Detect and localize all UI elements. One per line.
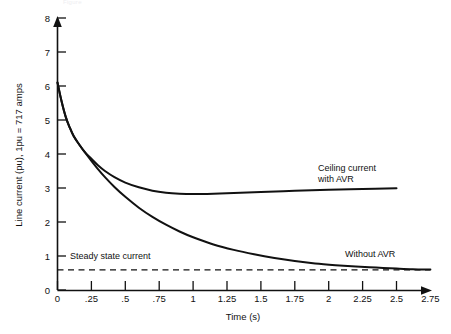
y-tick-label-1: 1 xyxy=(45,251,50,262)
y-axis-title: Line current (pu), 1pu = 717 amps xyxy=(13,83,24,227)
y-tick-marks xyxy=(58,18,67,290)
x-tick-label-2: .5 xyxy=(121,293,129,304)
x-tick-label-4: 1 xyxy=(190,293,195,304)
x-tick-label-9: 2.25 xyxy=(353,293,372,304)
x-tick-marks xyxy=(58,281,397,290)
x-axis-title: Time (s) xyxy=(226,311,260,322)
annotation-ceiling-line1: Ceiling current xyxy=(318,163,377,173)
annotation-ceiling-line2: with AVR xyxy=(317,174,354,184)
annotation-without-avr: Without AVR xyxy=(345,249,396,259)
x-tick-label-3: .75 xyxy=(153,293,166,304)
annotation-ceiling-current: Ceiling current with AVR xyxy=(317,163,377,184)
x-tick-label-5: 1.25 xyxy=(218,293,237,304)
x-tick-label-7: 1.75 xyxy=(286,293,305,304)
y-tick-label-7: 7 xyxy=(45,47,50,58)
y-tick-label-0: 0 xyxy=(45,285,50,296)
x-axis xyxy=(58,286,433,295)
x-tick-label-10: 2.5 xyxy=(390,293,403,304)
y-tick-label-3: 3 xyxy=(45,183,50,194)
x-tick-label-0: 0 xyxy=(55,293,60,304)
y-tick-label-2: 2 xyxy=(45,217,50,228)
y-tick-labels: 0 1 2 3 4 5 6 7 8 xyxy=(45,13,50,296)
y-tick-label-8: 8 xyxy=(45,13,50,24)
y-tick-label-6: 6 xyxy=(45,81,50,92)
y-axis xyxy=(53,16,62,290)
x-tick-label-11: 2.75 xyxy=(421,293,440,304)
y-tick-label-5: 5 xyxy=(45,115,50,126)
x-tick-label-6: 1.5 xyxy=(254,293,267,304)
y-tick-label-4: 4 xyxy=(45,149,50,160)
x-tick-label-8: 2 xyxy=(326,293,331,304)
chart-figure: Figure 0 1 2 3 4 xyxy=(0,0,451,334)
chart-canvas: 0 1 2 3 4 5 6 7 8 0 .25 .5 xyxy=(0,0,451,334)
x-tick-labels: 0 .25 .5 .75 1 1.25 1.5 1.75 2 2.25 2.5 … xyxy=(55,293,440,304)
x-tick-label-1: .25 xyxy=(85,293,98,304)
annotation-steady-state: Steady state current xyxy=(70,251,151,261)
